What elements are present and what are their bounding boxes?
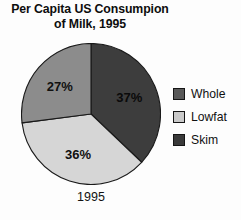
chart-title-line-2: of Milk, 1995 — [0, 17, 180, 32]
pie-slice-value-whole: 37% — [116, 90, 142, 105]
chart-legend: Whole Lowfat Skim — [173, 86, 241, 155]
legend-label-skim: Skim — [191, 134, 218, 147]
legend-swatch-whole — [173, 88, 185, 100]
legend-item-lowfat: Lowfat — [173, 109, 241, 125]
legend-swatch-skim — [173, 134, 185, 146]
pie-chart-plot: 37%36%27% — [21, 43, 161, 185]
pie-slice-value-lowfat: 36% — [65, 147, 91, 162]
legend-label-lowfat: Lowfat — [191, 111, 227, 124]
pie-chart-svg: 37%36%27% — [21, 43, 161, 185]
pie-chart-figure: Per Capita US Consumpion of Milk, 1995 3… — [0, 0, 241, 220]
legend-item-skim: Skim — [173, 132, 241, 148]
legend-swatch-lowfat — [173, 111, 185, 123]
legend-item-whole: Whole — [173, 86, 241, 102]
pie-slice-value-skim: 27% — [47, 79, 73, 94]
chart-title-line-1: Per Capita US Consumpion — [0, 2, 180, 17]
chart-title: Per Capita US Consumpion of Milk, 1995 — [0, 2, 180, 31]
legend-label-whole: Whole — [191, 88, 226, 101]
category-axis-label: 1995 — [21, 190, 161, 204]
pie-slices-group — [22, 44, 161, 185]
